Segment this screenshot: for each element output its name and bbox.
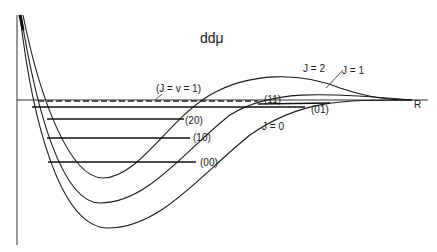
level-00-label: (00) — [200, 157, 218, 168]
curve-j1-label: J = 1 — [342, 65, 364, 76]
level-01-label: (01) — [311, 104, 329, 115]
resonance-pointer — [155, 94, 162, 100]
r-axis-label: R — [414, 99, 421, 110]
level-10-label: (10) — [193, 132, 211, 143]
potential-diagram: ddμ R (J = v = 1) (11) (01) (20) (10) (0… — [0, 0, 437, 252]
wall-highlight — [20, 15, 23, 30]
diagram-title: ddμ — [200, 30, 224, 46]
curve-j2-label: J = 2 — [303, 63, 325, 74]
curve-j0-label: J = 0 — [262, 121, 284, 132]
level-11-label: (11) — [264, 94, 281, 105]
level-20-label: (20) — [185, 115, 203, 126]
j1-pointer — [326, 70, 343, 88]
curve-j0 — [20, 15, 412, 228]
resonance-label: (J = v = 1) — [156, 83, 201, 94]
